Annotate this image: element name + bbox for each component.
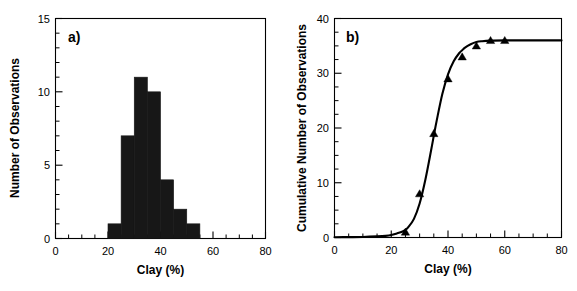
- panel-b-y-tick-40: 40: [317, 13, 329, 25]
- histogram-bar: [147, 92, 160, 239]
- panel-b-cumulative: Cumulative Number of Observations b): [290, 0, 577, 291]
- panel-b-x-tick-80: 80: [555, 244, 567, 256]
- panel-a-y-tick-10: 10: [38, 86, 50, 98]
- panel-b-y-major-ticks: [335, 19, 342, 238]
- panel-b-y-tick-20: 20: [317, 122, 329, 134]
- panel-a-histogram: Number of Observations a): [0, 0, 290, 291]
- panel-a-x-tick-20: 20: [102, 245, 114, 257]
- panel-a-bars: [108, 77, 200, 238]
- panel-a-y-tick-0: 0: [44, 233, 50, 245]
- panel-a-y-major-ticks: [56, 19, 63, 239]
- panel-a-x-tick-40: 40: [154, 245, 166, 257]
- panel-a-x-tick-60: 60: [207, 245, 219, 257]
- panel-b-data-markers: [401, 36, 509, 235]
- panel-a-y-minor-ticks: [56, 33, 60, 224]
- panel-b-x-tick-40: 40: [442, 244, 454, 256]
- panel-b-x-tick-60: 60: [499, 244, 511, 256]
- data-point-marker: [444, 75, 452, 82]
- histogram-bar: [108, 224, 121, 239]
- histogram-bar: [174, 209, 187, 238]
- data-point-marker: [430, 129, 438, 136]
- panel-b-x-axis-title: Clay (%): [424, 262, 471, 276]
- histogram-bar: [187, 224, 200, 239]
- panel-a-x-axis-title: Clay (%): [137, 263, 184, 277]
- panel-a-y-axis-title: Number of Observations: [8, 58, 22, 198]
- panel-b-y-axis-title: Cumulative Number of Observations: [295, 24, 309, 232]
- histogram-bar: [161, 180, 174, 239]
- panel-a-label: a): [68, 29, 80, 45]
- panel-a-y-tick-15: 15: [38, 13, 50, 25]
- panel-b-y-tick-10: 10: [317, 177, 329, 189]
- panel-a-x-tick-0: 0: [52, 245, 58, 257]
- panel-b-plot-frame: [335, 19, 562, 238]
- panel-b-label: b): [346, 29, 359, 45]
- panel-a-y-tick-5: 5: [44, 159, 50, 171]
- panel-b-y-tick-0: 0: [323, 232, 329, 244]
- panel-b-x-tick-20: 20: [385, 244, 397, 256]
- panel-a-x-tick-80: 80: [259, 245, 271, 257]
- histogram-bar: [134, 77, 147, 238]
- panel-b-x-tick-0: 0: [331, 244, 337, 256]
- panel-b-svg: Cumulative Number of Observations b): [290, 0, 577, 291]
- panel-a-svg: Number of Observations a): [0, 0, 290, 291]
- panel-b-y-tick-30: 30: [317, 67, 329, 79]
- figure-panel-container: Number of Observations a): [0, 0, 577, 291]
- panel-b-fitted-curve: [335, 40, 562, 237]
- histogram-bar: [121, 136, 134, 239]
